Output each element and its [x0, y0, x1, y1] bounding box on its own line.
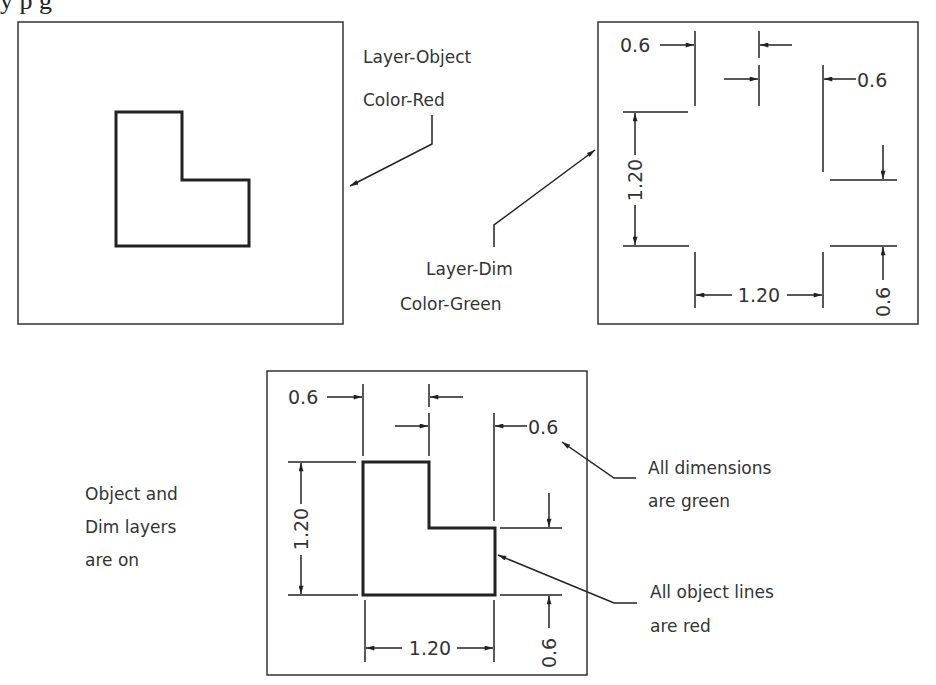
leader-object-lines [498, 555, 637, 603]
note-line-2: Dim layers [85, 517, 176, 537]
callout-dimensions: All dimensions are green [562, 442, 772, 511]
label-color-green: Color-Green [400, 294, 502, 314]
label-color-red: Color-Red [363, 90, 445, 110]
callout-dims-line-2: are green [648, 491, 730, 511]
label-layer-dim: Layer-Dim [426, 259, 513, 279]
note-line-3: are on [85, 550, 139, 570]
leader-to-dim-panel [494, 150, 595, 247]
dim-bottom-width: 1.20 [409, 637, 451, 659]
leader-to-object-panel [350, 115, 432, 186]
dim-top-left-width: 0.6 [288, 386, 318, 408]
callout-dims-line-1: All dimensions [648, 458, 772, 478]
dim-top-left-width: 0.6 [620, 34, 650, 56]
dim-bottom-right-height: 0.6 [872, 287, 894, 317]
dim-bottom-right-height: 0.6 [538, 638, 560, 668]
panel-frame [598, 22, 918, 324]
object-layer-label: Layer-Object Color-Red [350, 47, 472, 186]
panel-dim-layer: 0.6 0.6 1.20 1.20 0.6 [598, 22, 918, 324]
left-note: Object and Dim layers are on [85, 484, 178, 570]
label-layer-object: Layer-Object [363, 47, 472, 67]
dim-layer-label: Layer-Dim Color-Green [400, 150, 595, 314]
leader-dimensions [562, 442, 636, 478]
panel-combined: 0.6 0.6 1.20 1.20 0.6 [267, 371, 587, 675]
l-shape-object [116, 112, 249, 246]
layer-diagram: Layer-Object Color-Red Layer-Dim Color-G… [0, 0, 936, 685]
l-shape-object [363, 462, 495, 595]
dim-right-offset: 0.6 [528, 416, 558, 438]
dim-height: 1.20 [290, 508, 312, 550]
dim-bottom-width: 1.20 [738, 284, 780, 306]
panel-object-layer [18, 22, 343, 324]
dim-right-offset: 0.6 [857, 69, 887, 91]
note-line-1: Object and [85, 484, 178, 504]
callout-lines-line-1: All object lines [650, 582, 774, 602]
callout-lines-line-2: are red [650, 616, 711, 636]
dim-height: 1.20 [624, 159, 646, 201]
